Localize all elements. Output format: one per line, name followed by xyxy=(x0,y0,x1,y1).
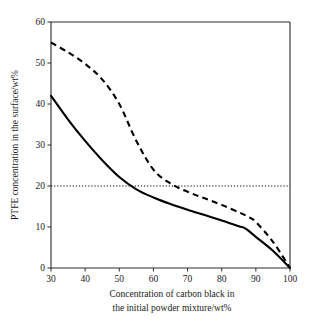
y-tick-group: 0102030405060 xyxy=(36,17,52,273)
x-tick-group: 30405060708090100 xyxy=(46,268,297,284)
x-tick-label-70: 70 xyxy=(183,274,193,284)
y-tick-label-40: 40 xyxy=(36,99,46,109)
x-tick-label-60: 60 xyxy=(149,274,159,284)
solid-curve xyxy=(51,96,290,268)
x-tick-label-90: 90 xyxy=(251,274,261,284)
x-tick-label-50: 50 xyxy=(115,274,125,284)
x-tick-label-40: 40 xyxy=(80,274,90,284)
chart-figure: 0102030405060 30405060708090100 PTFE con… xyxy=(0,0,310,330)
x-tick-label-80: 80 xyxy=(217,274,227,284)
x-axis-label-line1: Concentration of carbon black in xyxy=(109,289,234,299)
x-axis-label-line2: the initial powder mixture/wt% xyxy=(113,303,232,313)
chart-svg: 0102030405060 30405060708090100 PTFE con… xyxy=(0,0,310,330)
y-axis-group: 0102030405060 xyxy=(36,17,52,273)
x-axis-group: 30405060708090100 xyxy=(46,268,297,284)
y-tick-label-20: 20 xyxy=(36,181,46,191)
y-tick-label-60: 60 xyxy=(36,17,46,27)
y-tick-label-0: 0 xyxy=(40,263,45,273)
y-tick-label-10: 10 xyxy=(36,222,46,232)
y-tick-label-30: 30 xyxy=(36,140,46,150)
x-tick-label-100: 100 xyxy=(283,274,298,284)
x-tick-label-30: 30 xyxy=(46,274,56,284)
plot-frame xyxy=(51,22,290,268)
y-tick-label-50: 50 xyxy=(36,58,46,68)
y-axis-label: PTFE concentration in the surface/wt% xyxy=(10,70,20,220)
